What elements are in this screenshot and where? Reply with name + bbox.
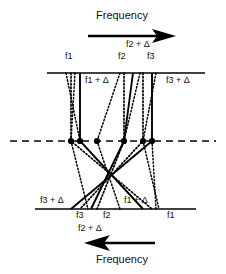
label-f3-top: f3 [147,52,155,61]
node-marker [140,138,146,144]
label-f3-delta-bottom: f3 + Δ [40,196,64,205]
figure-canvas: Frequency f1 f1 + Δ f2 f2 + Δ f3 f3 + Δ … [0,0,226,274]
trace-f4-return [152,141,156,209]
bottom-frequency-label: Frequency [96,254,148,265]
trace-upper-dotted-d [143,73,156,141]
label-f2-top: f2 [118,52,126,61]
node-marker [94,138,100,144]
trace-f1-return [71,141,88,209]
label-f1-bottom: f1 [167,211,175,220]
node-marker [149,138,155,144]
node-marker [77,138,83,144]
label-f1-delta-top: f1 + Δ [85,76,109,85]
frequency-hopping-diagram [0,0,226,274]
trace-upper-dotted-a [66,73,80,141]
label-f2-delta-top: f2 + Δ [126,40,150,49]
label-f3-bottom: f3 [76,211,84,220]
label-f1-delta-bottom: f1 + Δ [124,196,148,205]
label-f3-delta-top: f3 + Δ [166,76,190,85]
node-marker [68,138,74,144]
node-marker [121,138,127,144]
top-frequency-label: Frequency [96,10,148,21]
label-f1-top: f1 [65,52,73,61]
label-f2-bottom: f2 [103,211,111,220]
label-f2-delta-bottom: f2 + Δ [78,224,102,233]
bottom-frequency-arrow [84,235,155,251]
